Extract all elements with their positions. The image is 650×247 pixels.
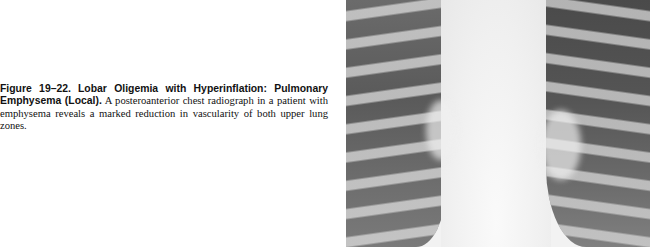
figure-caption: Figure 19–22. Lobar Oligemia with Hyperi… — [0, 83, 328, 133]
mediastinum — [441, 0, 551, 247]
right-hilum — [426, 100, 456, 160]
figure-label: Figure 19–22. — [0, 83, 71, 94]
chest-radiograph — [346, 0, 650, 247]
left-hilum — [541, 110, 581, 180]
